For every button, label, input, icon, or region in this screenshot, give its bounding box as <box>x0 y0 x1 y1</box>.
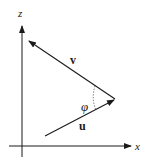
vector-diagram: z x v u φ <box>0 0 149 165</box>
z-axis-label: z <box>18 8 22 19</box>
vector-u-label: u <box>79 120 86 132</box>
vector-v-label: v <box>70 54 76 66</box>
x-axis-label: x <box>135 141 140 152</box>
diagram-graphics <box>0 0 149 165</box>
angle-phi-label: φ <box>81 100 88 113</box>
vector-v <box>29 41 115 99</box>
angle-arc <box>93 86 96 110</box>
